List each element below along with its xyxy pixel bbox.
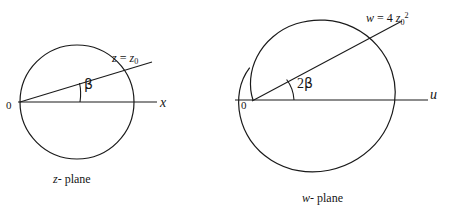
w-plane-point-superscript: 2	[405, 11, 409, 20]
w-plane-point-label: w = 4 z02	[366, 12, 409, 27]
z-plane-point-label: z = z0	[112, 52, 138, 67]
w-plane-group	[235, 20, 428, 172]
w-plane-angle-2beta-label: 2β	[297, 76, 313, 91]
z-plane-x-axis-label: x	[160, 96, 166, 110]
w-plane-point-equals: = 4	[374, 11, 396, 25]
w-plane-u-axis-label: u	[430, 88, 437, 102]
z-plane-caption: z- plane	[53, 173, 91, 185]
figure-canvas: 0 x β z = z0 z- plane 0 u 2β w = 4 z02 w…	[0, 0, 453, 217]
w-plane-angle-coefficient: 2	[297, 76, 304, 91]
w-plane-point-lhs: w	[366, 11, 374, 25]
w-plane-angle-greek: β	[304, 75, 313, 91]
w-plane-caption: w- plane	[302, 192, 343, 204]
z-plane-caption-rest: - plane	[58, 172, 91, 186]
z-plane-origin-label: 0	[6, 100, 12, 111]
z-plane-point-equals: =	[117, 51, 130, 65]
w-plane-origin-label: 0	[241, 100, 247, 111]
w-plane-caption-var: w	[302, 191, 310, 205]
z-plane-point-subscript: 0	[134, 57, 138, 66]
w-plane-ray-to-w0	[252, 21, 402, 101]
z-plane-angle-beta-label: β	[84, 77, 93, 91]
z-plane-angle-arc	[80, 83, 81, 102]
w-plane-caption-rest: - plane	[310, 191, 343, 205]
